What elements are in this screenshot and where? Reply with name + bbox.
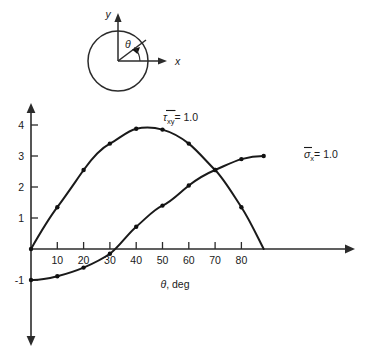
- x-tick-label-80: 80: [236, 254, 248, 266]
- tau-point-80: [239, 205, 243, 209]
- x-axis-arrowhead: [345, 245, 355, 254]
- y-tick-label-3: 3: [18, 150, 24, 162]
- tau-point-0: [29, 247, 33, 251]
- inset-x-label: x: [174, 55, 181, 67]
- inset-theta-label: θ: [125, 38, 131, 50]
- sigma-point-50: [160, 203, 164, 207]
- sigma-point-40: [134, 225, 138, 229]
- tau-series-label: τxy= 1.0: [163, 111, 198, 126]
- series-sigma-x: [29, 154, 266, 282]
- x-tick-labels: 10 20 30 40 50 60 70 80: [51, 254, 247, 266]
- sigma-series-label: σx= 1.0: [304, 148, 338, 163]
- x-tick-label-40: 40: [130, 254, 142, 266]
- figure-svg: y x θ: [0, 0, 373, 352]
- tau-point-60: [187, 141, 191, 145]
- x-axis-title-rest: , deg: [166, 278, 190, 290]
- x-tick-label-10: 10: [51, 254, 63, 266]
- tau-point-10: [55, 205, 59, 209]
- tau-curve-path: [31, 128, 264, 249]
- tau-point-50: [160, 127, 164, 131]
- tau-data-points: [29, 127, 244, 252]
- x-tick-label-70: 70: [209, 254, 221, 266]
- sigma-point-20: [81, 265, 85, 269]
- y-tick-marks: [31, 125, 38, 280]
- x-axis-title: θ, deg: [160, 278, 189, 290]
- y-axis-top-arrowhead: [27, 103, 36, 113]
- tau-point-30: [108, 141, 112, 145]
- inset-diagram: y x θ: [88, 8, 181, 91]
- y-axis-bottom-arrowhead: [27, 336, 36, 346]
- sigma-point-0: [29, 278, 33, 282]
- inset-x-arrowhead: [158, 57, 167, 64]
- sigma-point-80: [239, 157, 243, 161]
- sigma-point-90: [262, 154, 266, 158]
- y-tick-label-4: 4: [18, 119, 24, 131]
- x-tick-label-50: 50: [157, 254, 169, 266]
- tau-series-label-text: τxy= 1.0: [163, 111, 198, 126]
- sigma-value: = 1.0: [314, 148, 338, 160]
- sigma-point-70: [213, 168, 217, 172]
- sigma-point-10: [55, 274, 59, 278]
- inset-y-arrowhead: [114, 13, 121, 22]
- tau-point-40: [134, 127, 138, 131]
- y-tick-label-1: 1: [18, 212, 24, 224]
- y-tick-label-2: 2: [18, 181, 24, 193]
- sigma-curve-path: [31, 156, 264, 280]
- tau-value: = 1.0: [174, 111, 198, 123]
- x-tick-label-60: 60: [183, 254, 195, 266]
- sigma-point-30: [108, 252, 112, 256]
- figure-container: y x θ: [0, 0, 373, 352]
- sigma-series-label-text: σx= 1.0: [304, 148, 338, 163]
- inset-y-label: y: [104, 8, 111, 20]
- tau-point-20: [81, 168, 85, 172]
- x-tick-marks: [57, 242, 241, 249]
- series-tau-xy: [29, 127, 264, 252]
- y-tick-labels: 4 3 2 1 -1: [15, 119, 25, 286]
- sigma-point-60: [187, 183, 191, 187]
- y-tick-label-minus1: -1: [15, 274, 24, 286]
- x-tick-label-20: 20: [78, 254, 90, 266]
- inset-theta-ray: [118, 40, 146, 61]
